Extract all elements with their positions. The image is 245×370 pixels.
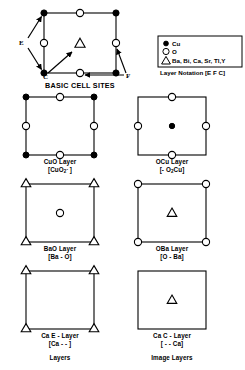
annotation-arrow-c bbox=[48, 52, 72, 73]
layer-formula-ca-c-layer: [ - - Ca] bbox=[132, 340, 212, 347]
layer-formula-bao-layer: [Ba - O] bbox=[20, 253, 100, 260]
legend-item-cu-label: Cu bbox=[172, 40, 180, 47]
formula-pre: [CuO bbox=[48, 166, 64, 173]
layer-formula-cuo-layer: [CuO2- ] bbox=[20, 166, 100, 176]
layer-formula-oba-layer: [O - Ba] bbox=[132, 253, 212, 260]
formula-post: Cu] bbox=[174, 166, 185, 173]
layer-cuo-layer-glyph bbox=[22, 93, 97, 158]
annotation-label-c: C bbox=[43, 73, 48, 81]
legend-notation-label: Layer Notation [E F C] bbox=[160, 69, 225, 76]
layer-oba-layer-glyph bbox=[134, 180, 209, 245]
layer-name-cuo-layer: CuO Layer bbox=[20, 158, 100, 165]
layer-formula-ca-e-layer: [Ca - - ] bbox=[20, 340, 100, 347]
formula-pre: [- O bbox=[160, 166, 171, 173]
layer-name-oba-layer: OBa Layer bbox=[132, 245, 212, 252]
crystal-layer-diagram bbox=[0, 0, 245, 370]
layer-ca-c-layer-glyph bbox=[138, 271, 206, 329]
formula-post: ] bbox=[68, 166, 72, 173]
layer-ocu-layer-glyph bbox=[134, 93, 209, 158]
basic-cell-center-triangle bbox=[75, 38, 85, 47]
layer-name-ca-e-layer: Ca E - Layer bbox=[20, 332, 100, 339]
layer-name-ocu-layer: OCu Layer bbox=[132, 158, 212, 165]
layer-name-bao-layer: BaO Layer bbox=[20, 245, 100, 252]
annotation-label-e: E bbox=[19, 39, 24, 47]
layer-ca-e-layer-glyph bbox=[21, 266, 99, 332]
layer-formula-ocu-layer: [- O2Cu] bbox=[132, 166, 212, 175]
layer-bao-layer-glyph bbox=[21, 179, 99, 245]
column-caption-layers: Layers bbox=[20, 354, 100, 361]
annotation-arrow-e bbox=[28, 17, 42, 70]
column-caption-image-layers: Image Layers bbox=[132, 354, 212, 361]
basic-cell-title: BASIC CELL SITES bbox=[0, 82, 160, 89]
legend-item-cations-label: Ba, Bi, Ca, Sr, Tl,Y bbox=[172, 57, 225, 64]
annotation-arrow-f bbox=[85, 49, 126, 75]
figure-canvas: E C F BASIC CELL SITES Cu O Ba, Bi, Ca, … bbox=[0, 0, 245, 370]
legend-item-o-label: O bbox=[172, 48, 177, 55]
layer-name-ca-c-layer: Ca C - Layer bbox=[132, 332, 212, 339]
annotation-label-f: F bbox=[126, 72, 130, 80]
